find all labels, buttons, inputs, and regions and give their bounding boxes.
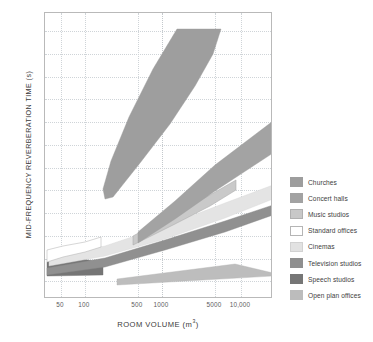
legend-swatch-standard-offices xyxy=(290,226,303,236)
x-axis-title: ROOM VOLUME (m3) xyxy=(44,318,272,329)
legend-item-standard-offices[interactable]: Standard offices xyxy=(290,223,373,239)
legend-label-churches: Churches xyxy=(308,179,337,186)
band-open-plan-offices xyxy=(117,264,272,285)
legend-label-music-studios: Music studios xyxy=(308,211,349,218)
band-churches xyxy=(103,29,221,199)
legend-label-television-studios: Television studios xyxy=(308,260,361,267)
legend-item-television-studios[interactable]: Television studios xyxy=(290,255,373,271)
legend-item-concert-halls[interactable]: Concert halls xyxy=(290,190,373,206)
legend-swatch-churches xyxy=(290,177,303,187)
legend-item-cinemas[interactable]: Cinemas xyxy=(290,239,373,255)
legend-label-speech-studios: Speech studios xyxy=(308,276,355,283)
legend-swatch-speech-studios xyxy=(290,274,303,284)
x-tick-100: 100 xyxy=(64,301,104,308)
plot-area xyxy=(44,12,272,298)
legend-label-open-plan-offices: Open plan offices xyxy=(308,292,361,299)
legend-label-standard-offices: Standard offices xyxy=(308,227,357,234)
legend-swatch-concert-halls xyxy=(290,193,303,203)
legend-swatch-television-studios xyxy=(290,258,303,268)
legend-item-speech-studios[interactable]: Speech studios xyxy=(290,271,373,287)
chart-legend: Churches Concert halls Music studios Sta… xyxy=(290,174,373,304)
x-tick-1000: 1000 xyxy=(141,301,181,308)
legend-swatch-cinemas xyxy=(290,242,303,252)
legend-label-cinemas: Cinemas xyxy=(308,243,335,250)
x-axis-title-end: ) xyxy=(196,320,199,329)
x-axis-title-main: ROOM VOLUME (m xyxy=(117,320,192,329)
legend-item-music-studios[interactable]: Music studios xyxy=(290,206,373,222)
reverberation-time-chart: MID-FREQUENCY REVERBERATION TIME (s) 3.0… xyxy=(0,0,373,342)
y-axis-title: MID-FREQUENCY REVERBERATION TIME (s) xyxy=(24,35,33,275)
x-tick-10000: 10,000 xyxy=(220,301,260,308)
data-bands xyxy=(45,13,272,298)
legend-swatch-music-studios xyxy=(290,209,303,219)
legend-label-concert-halls: Concert halls xyxy=(308,195,348,202)
legend-item-churches[interactable]: Churches xyxy=(290,174,373,190)
legend-item-open-plan-offices[interactable]: Open plan offices xyxy=(290,287,373,303)
legend-swatch-open-plan-offices xyxy=(290,290,303,300)
